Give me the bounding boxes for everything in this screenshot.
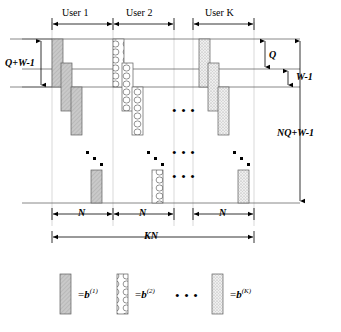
diagonal-dot-runs (86, 151, 250, 166)
overall-kn-label: KN (144, 231, 158, 241)
legend-swatch-b1 (60, 274, 71, 314)
legend-superscript-bK: (K) (242, 287, 251, 295)
block-user2-3 (132, 87, 143, 135)
legend-equals-b1: =b(1) (78, 288, 98, 300)
segment-n-label-1: N (78, 208, 85, 218)
user1-label: User 1 (62, 8, 88, 18)
user1-blocks (52, 39, 102, 203)
ellipsis-group-1: • • • (172, 104, 196, 117)
ellipsis-group-2: • • • (172, 146, 196, 159)
ellipsis-group-3: • • • (172, 170, 196, 183)
block-user1-last (91, 170, 102, 203)
segment-n-label-3: N (219, 208, 226, 218)
legend-separator-ellipsis: • • • (175, 289, 199, 302)
user2-blocks (113, 39, 163, 203)
figure-root: User 1 User 2 User K Q+W-1 Q W-1 NQ+W-1 … (0, 0, 341, 332)
block-user2-2 (122, 63, 133, 111)
block-user2-last (152, 170, 163, 203)
user-span-arrows (52, 18, 254, 30)
left-dimension-label: Q+W-1 (5, 58, 35, 68)
user2-label: User 2 (126, 8, 152, 18)
legend-equals-b2: =b(2) (135, 288, 155, 300)
right-dimension-arrows (265, 41, 300, 201)
block-userk-2 (208, 63, 219, 111)
block-userk-last (238, 170, 249, 203)
nqw-dimension-label: NQ+W-1 (277, 128, 314, 138)
legend-swatch-b2 (117, 274, 128, 314)
userk-blocks (199, 39, 249, 203)
q-dimension-label: Q (269, 50, 276, 60)
userk-label: User K (205, 8, 234, 18)
block-userk-3 (218, 87, 229, 135)
legend-swatch-bK (212, 274, 223, 314)
legend-superscript-b2: (2) (147, 287, 155, 295)
block-user1-3 (71, 87, 82, 135)
diagram-canvas (0, 0, 341, 332)
legend-equals-bK: =b(K) (230, 288, 251, 300)
block-user1-2 (61, 63, 72, 111)
legend-superscript-b1: (1) (90, 287, 98, 295)
w-dimension-label: W-1 (296, 72, 313, 82)
segment-n-label-2: N (139, 208, 146, 218)
